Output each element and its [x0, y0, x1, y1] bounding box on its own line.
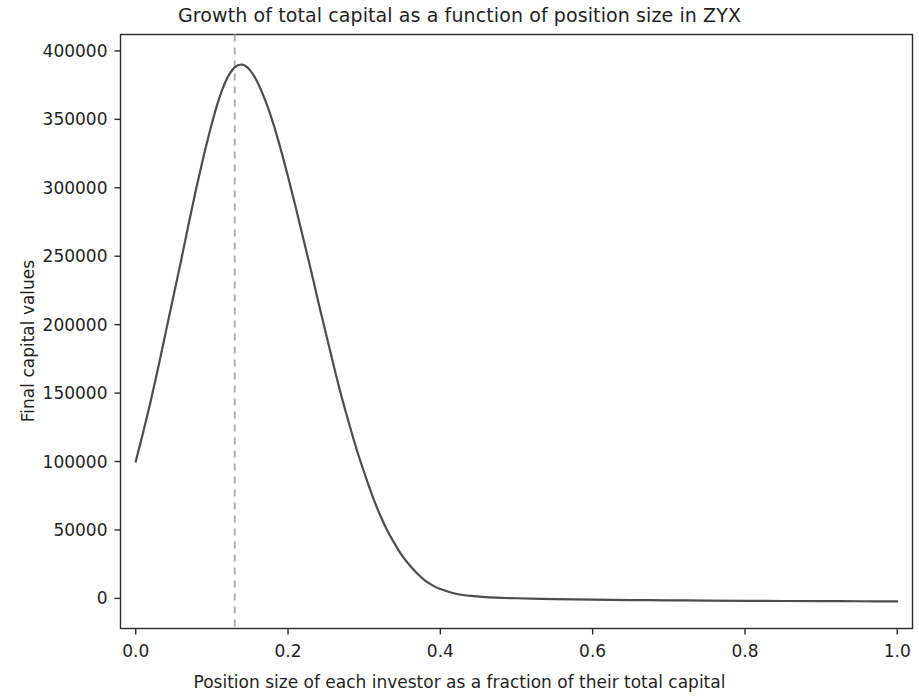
y-tick-label: 250000	[0, 246, 108, 266]
y-tick-label: 200000	[0, 315, 108, 335]
y-tick-label: 0	[0, 588, 108, 608]
y-tick-label: 50000	[0, 520, 108, 540]
y-tick-marks	[115, 51, 121, 598]
x-tick-label: 0.8	[731, 641, 758, 661]
x-tick-label: 0.2	[275, 641, 302, 661]
x-axis-label: Position size of each investor as a frac…	[0, 672, 919, 692]
plot-canvas	[0, 0, 919, 700]
data-layer	[136, 64, 898, 601]
y-tick-label: 350000	[0, 109, 108, 129]
y-tick-label: 100000	[0, 452, 108, 472]
x-tick-label: 0.4	[427, 641, 454, 661]
y-tick-label: 300000	[0, 178, 108, 198]
x-tick-label: 0.0	[122, 641, 149, 661]
axes-frame	[121, 35, 913, 629]
y-axis-label: Final capital values	[18, 241, 38, 441]
y-tick-label: 150000	[0, 383, 108, 403]
chart-figure: Growth of total capital as a function of…	[0, 0, 919, 700]
capital-growth-curve	[136, 64, 898, 601]
x-tick-marks	[136, 629, 898, 635]
y-tick-label: 400000	[0, 41, 108, 61]
x-tick-label: 0.6	[579, 641, 606, 661]
plot-border	[121, 35, 913, 629]
x-tick-label: 1.0	[884, 641, 911, 661]
